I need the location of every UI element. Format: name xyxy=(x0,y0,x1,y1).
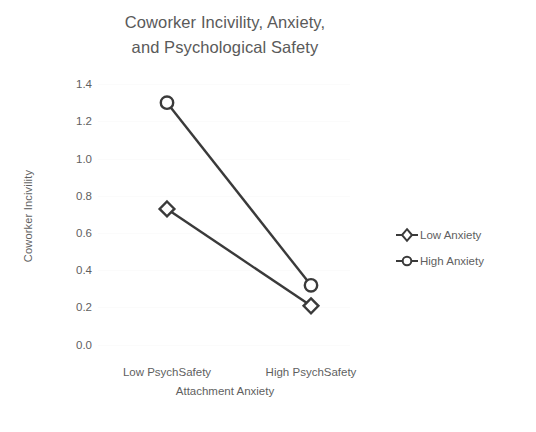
chart-container: Coworker Incivility, Anxiety, and Psycho… xyxy=(0,0,536,432)
x-axis-tick-label-high: High PsychSafety xyxy=(236,366,386,378)
legend-item-high-anxiety[interactable]: High Anxiety xyxy=(396,248,484,274)
legend-label-low-anxiety: Low Anxiety xyxy=(420,229,481,241)
data-point-marker[interactable] xyxy=(160,202,175,217)
chart-legend: Low Anxiety High Anxiety xyxy=(396,222,484,274)
data-point-marker[interactable] xyxy=(161,96,173,108)
data-point-marker[interactable] xyxy=(305,279,317,291)
legend-item-low-anxiety[interactable]: Low Anxiety xyxy=(396,222,484,248)
diamond-marker-icon xyxy=(396,227,418,243)
data-point-marker[interactable] xyxy=(304,298,319,313)
circle-marker-icon xyxy=(396,253,418,269)
x-axis-tick-label-low: Low PsychSafety xyxy=(92,366,242,378)
legend-label-high-anxiety: High Anxiety xyxy=(420,255,484,267)
series-layer xyxy=(160,96,319,313)
x-axis-title: Attachment Anxiety xyxy=(95,385,355,397)
